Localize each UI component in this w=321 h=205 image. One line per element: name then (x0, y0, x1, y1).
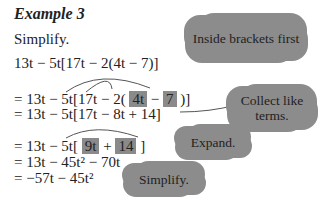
arrow-icon (66, 79, 150, 92)
arrow-icon (86, 81, 112, 92)
callout-collect-like-terms: Collect like terms. (232, 88, 312, 128)
callout-inside-brackets: Inside brackets first (190, 17, 302, 59)
callout-simplify: Simplify. (128, 165, 200, 193)
arrow-icon (66, 130, 138, 138)
arrow-icon (180, 105, 236, 112)
callout-expand: Expand. (180, 128, 246, 156)
